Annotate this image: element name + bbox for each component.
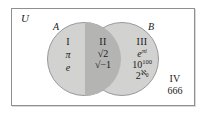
set-a-label: A — [53, 22, 59, 32]
region-one-item-e: e — [53, 63, 83, 73]
region-one: I π e — [53, 37, 83, 73]
set-b-label: B — [148, 22, 154, 32]
venn-diagram-figure: U A B I π e II √2 √−1 III eπi 10100 2ℵ0 — [0, 0, 204, 116]
region-three-numeral: III — [122, 37, 162, 47]
region-one-item-pi: π — [53, 50, 83, 60]
region-two-item-sqrt-2: √2 — [87, 49, 119, 59]
region-one-numeral: I — [53, 37, 83, 47]
region-three-item-3-exponent: ℵ0 — [141, 69, 149, 76]
region-two-radicand-2: 2 — [103, 48, 108, 59]
region-three-item-two-to-aleph-null: 2ℵ0 — [122, 71, 162, 81]
region-three-item-1-exponent: πi — [142, 47, 147, 54]
region-two-numeral: II — [87, 37, 119, 47]
region-three-item-2-exponent: 100 — [142, 58, 152, 65]
region-four-numeral: IV — [160, 74, 190, 84]
region-two-radicand-neg-1: −1 — [100, 59, 111, 70]
universal-set-label: U — [21, 13, 29, 24]
region-four: IV 666 — [160, 74, 190, 96]
region-three: III eπi 10100 2ℵ0 — [122, 37, 162, 81]
region-two-item-sqrt-neg-1: √−1 — [87, 60, 119, 70]
region-two: II √2 √−1 — [87, 37, 119, 70]
region-three-item-3-exponent-subscript: 0 — [146, 72, 149, 78]
region-four-item-666: 666 — [160, 86, 190, 96]
